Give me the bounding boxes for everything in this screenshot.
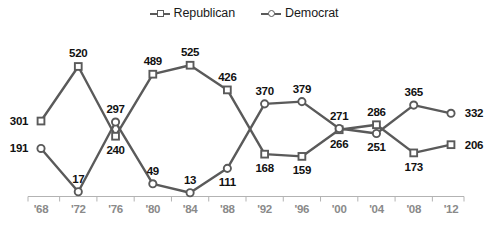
x-axis-label-68: '68 [34,203,49,215]
data-point-republican-12[interactable] [448,141,455,148]
series-line-democrat [41,102,451,193]
data-point-republican-96[interactable] [299,153,306,160]
data-point-democrat-72[interactable] [75,188,82,195]
x-axis-label-76: '76 [108,203,123,215]
data-point-democrat-88[interactable] [224,165,231,172]
x-axis-labels: '68'72'76'80'84'88'92'96'00'04'08'12 [0,203,488,225]
data-point-republican-68[interactable] [38,118,45,125]
data-point-democrat-12[interactable] [447,110,454,117]
data-point-democrat-08[interactable] [410,101,417,108]
x-axis-label-84: '84 [183,203,198,215]
x-axis-label-88: '88 [220,203,235,215]
data-point-democrat-92[interactable] [261,100,268,107]
data-point-democrat-96[interactable] [298,98,305,105]
x-axis [28,197,464,202]
plot-svg [0,0,488,237]
series-group [37,62,454,197]
data-point-democrat-76[interactable] [112,118,119,125]
x-axis-label-96: '96 [295,203,310,215]
plot-area: 3015202404895254261681592662861732061911… [0,0,488,237]
data-point-republican-72[interactable] [75,63,82,70]
x-axis-label-08: '08 [406,203,421,215]
election-line-chart: Republican Democrat 30152024048952542616… [0,0,488,237]
x-axis-label-92: '92 [257,203,272,215]
x-axis-label-04: '04 [369,203,384,215]
data-point-democrat-68[interactable] [37,145,44,152]
x-axis-label-12: '12 [444,203,459,215]
x-axis-label-80: '80 [145,203,160,215]
data-point-democrat-80[interactable] [149,180,156,187]
data-point-democrat-84[interactable] [186,189,193,196]
data-point-republican-08[interactable] [410,150,417,157]
data-point-republican-92[interactable] [261,151,268,158]
data-point-republican-76[interactable] [112,133,119,140]
data-point-republican-80[interactable] [149,71,156,78]
x-axis-label-72: '72 [71,203,86,215]
data-point-republican-84[interactable] [187,62,194,69]
data-point-democrat-04[interactable] [373,130,380,137]
data-point-republican-04[interactable] [373,121,380,128]
series-line-republican [41,65,451,156]
x-axis-label-00: '00 [332,203,347,215]
data-point-democrat-00[interactable] [336,125,343,132]
data-point-republican-88[interactable] [224,86,231,93]
